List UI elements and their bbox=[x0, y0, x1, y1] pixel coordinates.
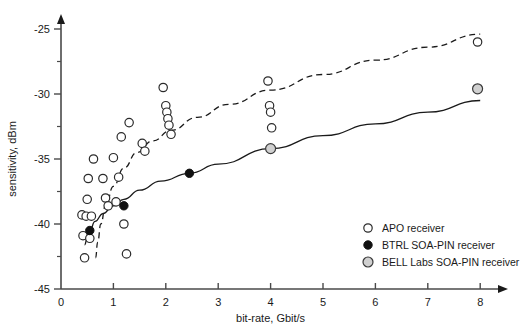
data-point bbox=[83, 195, 91, 203]
data-point bbox=[267, 124, 275, 132]
data-point bbox=[141, 147, 149, 155]
legend-marker-filled-circle bbox=[364, 241, 372, 249]
series-gray-circle bbox=[266, 84, 483, 154]
x-axis-arrowhead bbox=[498, 285, 508, 293]
data-point bbox=[266, 108, 274, 116]
x-tick-label: 6 bbox=[372, 296, 378, 308]
x-tick-label: 3 bbox=[215, 296, 221, 308]
data-point bbox=[117, 133, 125, 141]
y-tick-label: -35 bbox=[34, 153, 50, 165]
data-point bbox=[120, 202, 128, 210]
x-axis-label: bit-rate, Gbit/s bbox=[236, 312, 306, 324]
data-point bbox=[101, 194, 109, 202]
chart-figure: 012345678bit-rate, Gbit/s-45-40-35-30-25… bbox=[0, 0, 527, 335]
data-point bbox=[80, 254, 88, 262]
legend: APO receiverBTRL SOA-PIN receiverBELL La… bbox=[363, 222, 520, 268]
data-point bbox=[165, 121, 173, 129]
x-tick-label: 0 bbox=[58, 296, 64, 308]
data-point bbox=[185, 169, 193, 177]
data-point bbox=[86, 234, 94, 242]
y-tick-label: -25 bbox=[34, 23, 50, 35]
data-point bbox=[138, 139, 146, 147]
data-point bbox=[159, 83, 167, 91]
x-tick-label: 8 bbox=[477, 296, 483, 308]
y-axis-arrowhead bbox=[57, 14, 65, 24]
data-point bbox=[167, 130, 175, 138]
data-point bbox=[125, 118, 133, 126]
data-point bbox=[473, 84, 483, 94]
x-tick-label: 5 bbox=[320, 296, 326, 308]
data-point bbox=[109, 154, 117, 162]
data-point bbox=[84, 174, 92, 182]
y-axis-label: sensitivity, dBm bbox=[6, 121, 18, 197]
x-tick-label: 2 bbox=[163, 296, 169, 308]
x-tick-label: 1 bbox=[110, 296, 116, 308]
legend-label: BELL Labs SOA-PIN receiver bbox=[382, 256, 520, 268]
data-point bbox=[122, 250, 130, 258]
scatter-plot: 012345678bit-rate, Gbit/s-45-40-35-30-25… bbox=[0, 0, 527, 335]
data-point bbox=[264, 77, 272, 85]
data-point bbox=[89, 155, 97, 163]
legend-marker-open-circle bbox=[364, 224, 372, 232]
x-tick-label: 4 bbox=[268, 296, 274, 308]
data-point bbox=[473, 38, 481, 46]
legend-marker-gray-circle bbox=[363, 257, 373, 267]
data-point bbox=[104, 202, 112, 210]
y-tick-label: -40 bbox=[34, 218, 50, 230]
data-point bbox=[114, 173, 122, 181]
data-point bbox=[112, 198, 120, 206]
data-point bbox=[120, 220, 128, 228]
y-tick-label: -45 bbox=[34, 283, 50, 295]
data-point bbox=[99, 174, 107, 182]
data-point bbox=[87, 212, 95, 220]
data-point bbox=[266, 144, 276, 154]
data-point bbox=[86, 226, 94, 234]
legend-label: APO receiver bbox=[382, 222, 445, 234]
x-tick-label: 7 bbox=[425, 296, 431, 308]
y-tick-label: -30 bbox=[34, 88, 50, 100]
legend-label: BTRL SOA-PIN receiver bbox=[382, 239, 495, 251]
